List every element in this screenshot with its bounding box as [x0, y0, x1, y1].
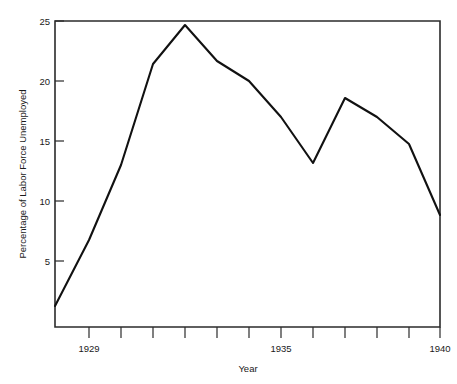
y-tick-label-10: 10 — [39, 196, 50, 207]
x-tick-label-1935: 1935 — [270, 343, 291, 354]
unemployment-line-chart: 25 20 15 10 5 1929 1935 1940 — [0, 0, 457, 384]
x-tick-label-1929: 1929 — [78, 343, 99, 354]
y-tick-label-15: 15 — [39, 136, 50, 147]
y-tick-label-25: 25 — [39, 16, 50, 27]
x-axis-tick-labels: 1929 1935 1940 — [78, 343, 450, 354]
x-tick-label-1940: 1940 — [429, 343, 450, 354]
x-axis-title: Year — [238, 363, 257, 374]
y-tick-label-5: 5 — [45, 256, 50, 267]
y-axis-ticks — [55, 21, 64, 261]
chart-svg: 25 20 15 10 5 1929 1935 1940 — [0, 0, 457, 384]
unemployment-data-line — [55, 25, 440, 306]
y-axis-tick-labels: 25 20 15 10 5 — [39, 16, 50, 267]
y-axis-title: Percentage of Labor Force Unemployed — [17, 90, 28, 259]
y-tick-label-20: 20 — [39, 76, 50, 87]
x-axis-ticks — [89, 327, 440, 338]
plot-frame — [55, 21, 440, 327]
